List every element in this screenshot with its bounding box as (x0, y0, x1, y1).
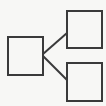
hierarchy-icon (0, 0, 106, 106)
connectors (43, 33, 67, 80)
hierarchy-diagram (0, 0, 106, 106)
nodes (8, 11, 102, 101)
connector-root-child-top (43, 33, 67, 54)
node-child-top (67, 11, 102, 48)
node-child-bottom (67, 63, 102, 101)
connector-root-child-bottom (43, 56, 67, 80)
node-root (8, 37, 43, 75)
